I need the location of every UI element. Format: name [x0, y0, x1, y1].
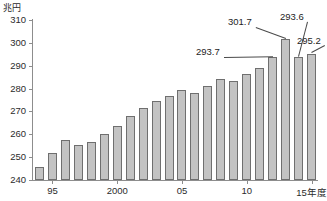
data-label-14: 293.6 — [280, 11, 304, 22]
y-tick-label: 300 — [10, 37, 26, 48]
bar — [74, 145, 83, 180]
bar — [216, 79, 225, 180]
bar — [87, 142, 96, 180]
bar — [242, 74, 251, 180]
y-tick-mark — [29, 66, 33, 67]
bar — [113, 126, 122, 180]
y-tick-label: 290 — [10, 60, 26, 71]
bar — [281, 39, 290, 180]
x-tick-label: 05 — [177, 185, 188, 196]
x-tick-mark — [52, 180, 53, 184]
bar — [126, 116, 135, 180]
x-tick-label: 95 — [47, 185, 58, 196]
y-tick-label: 310 — [10, 14, 26, 25]
y-tick-mark — [29, 180, 33, 181]
bar — [307, 54, 316, 180]
y-tick-mark — [29, 157, 33, 158]
data-label-15: 295.2 — [297, 35, 321, 46]
x-tick-mark — [247, 180, 248, 184]
leader-line-12 — [224, 56, 273, 58]
bar — [190, 93, 199, 180]
bar — [203, 86, 212, 180]
bar — [177, 90, 186, 180]
y-axis-unit-label: 兆円 — [3, 1, 21, 14]
bar — [152, 101, 161, 180]
y-tick-mark — [29, 134, 33, 135]
bar — [48, 153, 57, 180]
x-tick-label: 15年度 — [296, 185, 327, 199]
y-tick-mark — [29, 89, 33, 90]
x-tick-mark — [182, 180, 183, 184]
bar — [35, 167, 44, 180]
bar — [165, 96, 174, 180]
bar — [100, 134, 109, 180]
bar — [139, 108, 148, 180]
y-tick-mark — [29, 43, 33, 44]
y-tick-label: 270 — [10, 105, 26, 116]
data-label-13: 301.7 — [228, 16, 252, 27]
bar — [268, 57, 277, 180]
bar — [229, 81, 238, 180]
bar — [61, 140, 70, 180]
leader-line-15 — [311, 45, 324, 53]
x-tick-mark — [117, 180, 118, 184]
y-tick-label: 260 — [10, 128, 26, 139]
y-tick-mark — [29, 20, 33, 21]
x-tick-mark — [312, 180, 313, 184]
y-tick-mark — [29, 111, 33, 112]
bar — [255, 68, 264, 180]
bar — [294, 57, 303, 180]
y-tick-label: 240 — [10, 174, 26, 185]
data-label-12: 293.7 — [196, 46, 220, 57]
x-tick-label: 2000 — [107, 185, 128, 196]
y-tick-label: 280 — [10, 83, 26, 94]
x-axis-line — [32, 180, 318, 181]
leader-line-13 — [255, 27, 285, 39]
x-tick-label: 10 — [241, 185, 252, 196]
y-tick-label: 250 — [10, 151, 26, 162]
